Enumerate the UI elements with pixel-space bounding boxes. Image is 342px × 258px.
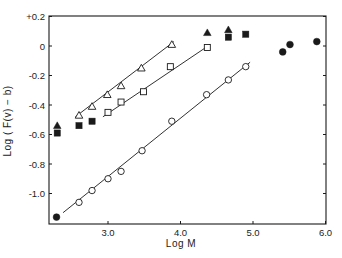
open-squares-point xyxy=(105,109,111,115)
x-tick-label: 3.0 xyxy=(101,227,114,238)
open-circles-point xyxy=(89,187,95,193)
open-squares-point xyxy=(204,44,210,50)
y-tick-label: 0 xyxy=(40,41,45,52)
open-circles-point xyxy=(243,63,249,69)
open-circles-point xyxy=(76,199,82,205)
chart: +0.20-0.2-0.4-0.6-0.8-1.0 3.04.05.06.0 L… xyxy=(0,0,342,258)
filled-circles-point xyxy=(313,38,320,45)
open-triangles-point xyxy=(168,41,176,48)
y-tick-label: +0.2 xyxy=(26,11,45,22)
y-tick-label: -0.6 xyxy=(29,129,45,140)
y-axis-ticks: +0.20-0.2-0.4-0.6-0.8-1.0 xyxy=(26,11,326,199)
x-tick-label: 5.0 xyxy=(246,227,259,238)
x-axis-title: Log M xyxy=(166,238,196,249)
y-tick-label: -1.0 xyxy=(29,188,45,199)
open-triangles-point xyxy=(138,64,146,71)
y-tick-label: -0.4 xyxy=(29,100,45,111)
filled-squares-point xyxy=(89,118,95,124)
filled-squares-point xyxy=(243,31,249,37)
open-triangles-point xyxy=(117,82,125,89)
open-circles-point xyxy=(139,148,145,154)
filled-circles-point xyxy=(279,49,286,56)
data-markers xyxy=(53,26,320,221)
open-circles-point xyxy=(203,91,209,97)
filled-squares-point xyxy=(225,34,231,40)
x-tick-label: 4.0 xyxy=(174,227,187,238)
open-squares-point xyxy=(118,99,124,105)
open-squares-point xyxy=(167,64,173,70)
y-tick-label: -0.2 xyxy=(29,70,45,81)
filled-triangles-point xyxy=(225,26,233,33)
filled-triangles-point xyxy=(204,29,212,36)
y-tick-label: -0.8 xyxy=(29,159,45,170)
filled-squares-point xyxy=(76,123,82,129)
y-axis-title: Log ( F(v) − b) xyxy=(2,85,13,156)
open-circles-point xyxy=(118,168,124,174)
filled-squares-point xyxy=(54,130,60,136)
filled-circles-point xyxy=(287,41,294,48)
fit-lines xyxy=(63,42,250,213)
open-squares-point xyxy=(141,89,147,95)
open-circles-point xyxy=(169,118,175,124)
filled-triangles-point xyxy=(53,122,61,129)
x-tick-label: 6.0 xyxy=(319,227,332,238)
open-circles-point xyxy=(105,176,111,182)
open-circles-point xyxy=(225,77,231,83)
filled-circles-point xyxy=(53,214,60,221)
